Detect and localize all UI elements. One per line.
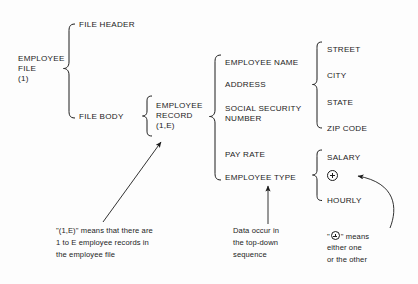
field-social-security-line2: NUMBER [225,114,262,124]
annotation-middle-line2: the top-down [233,238,278,248]
annotation-right-quote-close: " [341,232,344,241]
brace-address [313,42,323,128]
node-employee-file-line3: (1) [18,74,29,84]
field-street: STREET [327,45,360,55]
field-zip-code: ZIP CODE [327,124,367,134]
field-hourly: HOURLY [327,196,362,206]
brace-file-body [143,96,153,136]
node-file-header: FILE HEADER [79,20,135,30]
brace-employee-record [210,55,222,180]
annotation-left-line2: 1 to E employee records in [56,238,149,248]
arrow-left-annotation [103,142,161,222]
field-city: CITY [327,71,346,81]
field-social-security-line1: SOCIAL SECURITY [225,104,301,114]
field-pay-rate: PAY RATE [225,150,265,160]
field-state: STATE [327,98,353,108]
node-employee-record-line2: RECORD [156,111,193,121]
annotation-right-means: means [346,232,369,241]
annotation-right-line1: "" means [327,231,369,242]
annotation-middle-line3: sequence [233,250,267,260]
annotation-right-quote-open: " [327,232,330,241]
node-employee-file-line1: EMPLOYEE [18,54,65,64]
plus-in-circle-icon-inline [331,231,340,240]
arrow-right-annotation [358,176,394,228]
annotation-right-line3: or the other [327,255,367,265]
field-employee-type: EMPLOYEE TYPE [225,173,296,183]
node-employee-file-line2: FILE [18,64,36,74]
field-employee-name: EMPLOYEE NAME [225,58,298,68]
brace-employee-file [64,24,76,118]
annotation-left-line1: "(1,E)" means that there are [56,226,153,236]
diagram-canvas: EMPLOYEE FILE (1) FILE HEADER FILE BODY … [0,0,418,284]
annotation-middle-line1: Data occur in [233,226,279,236]
node-employee-record-line1: EMPLOYEE [156,101,203,111]
plus-in-circle-icon [327,170,338,181]
node-file-body: FILE BODY [79,112,124,122]
field-address: ADDRESS [225,80,266,90]
node-employee-record-line3: (1,E) [156,121,175,131]
annotation-right-line2: either one [327,243,362,253]
annotation-left-line3: the employee file [56,250,115,260]
brace-employee-type [313,150,323,201]
field-salary: SALARY [327,153,360,163]
